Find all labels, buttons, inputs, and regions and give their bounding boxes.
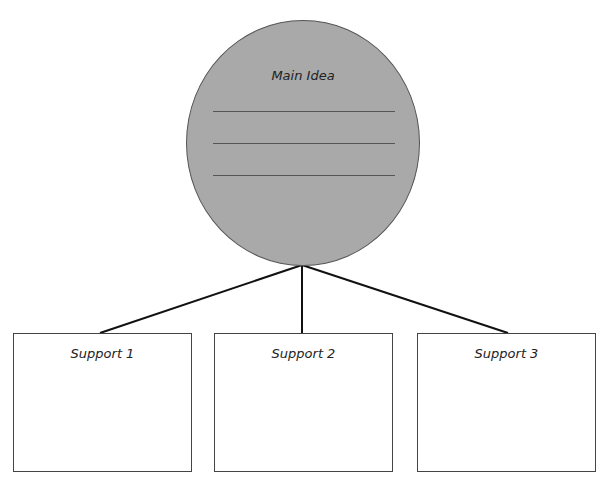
support-box-3: Support 3 [417,333,596,472]
support-title-1: Support 1 [14,346,191,361]
connector-line-1 [100,265,302,333]
support-title-3: Support 3 [418,346,595,361]
connector-line-3 [302,265,508,333]
write-line-1 [213,111,395,112]
write-line-3 [213,175,395,176]
write-line-2 [213,143,395,144]
support-box-1: Support 1 [13,333,192,472]
main-idea-title: Main Idea [187,68,419,83]
support-box-2: Support 2 [214,333,393,472]
main-idea-circle: Main Idea [186,20,420,266]
support-title-2: Support 2 [215,346,392,361]
